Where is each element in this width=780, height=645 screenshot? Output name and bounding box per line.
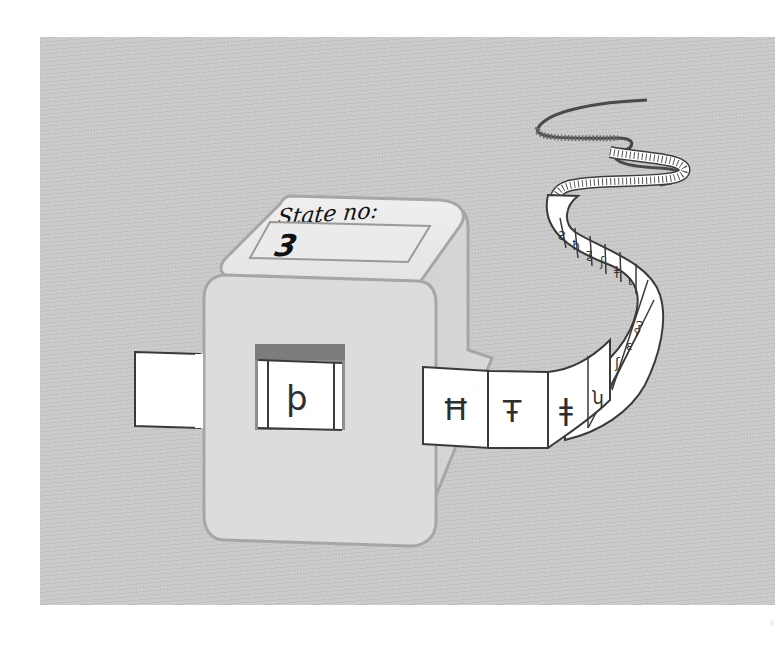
svg-text:ɩ: ɩ (628, 274, 632, 288)
read-head-window: þ (255, 344, 345, 430)
tape-cell-2: Ŧ (502, 394, 522, 429)
tape-cell-1: Ħ (442, 392, 469, 427)
svg-text:ʃ: ʃ (614, 355, 620, 371)
head-symbol: þ (286, 378, 308, 418)
tape-left-cell (135, 352, 203, 428)
tape-cell-3: ǂ (559, 392, 573, 427)
svg-text:ħ: ħ (572, 239, 580, 253)
svg-text:Ƨ: Ƨ (558, 229, 566, 243)
svg-text:ǂ: ǂ (614, 264, 620, 278)
tape-cell-4: ʮ (592, 387, 604, 408)
tape-far-end (538, 100, 685, 196)
svg-text:ɛ: ɛ (626, 339, 633, 353)
turing-machine-illustration: Ƨ ħ ƺ ʃ ǂ ɩ Ɂ State no: 3 (0, 0, 780, 645)
svg-text:ʕ: ʕ (634, 327, 639, 338)
svg-text:ƺ: ƺ (586, 247, 592, 261)
corner-mark: ˀ (770, 619, 774, 633)
